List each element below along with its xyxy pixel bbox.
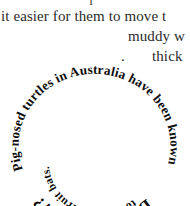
badge-outer-ring-text: Pig-nosed turtles in Australia have been… xyxy=(6,62,182,173)
badge-outer-ring-textpath: Pig-nosed turtles in Australia have been… xyxy=(6,62,182,173)
badge-title: Did you know? xyxy=(28,192,156,206)
document-page: l it easier for them to move t muddy w .… xyxy=(0,0,190,206)
badge-title-textpath: Did you know? xyxy=(28,192,156,206)
body-text-line-1: it easier for them to move t xyxy=(1,9,166,24)
body-text-line-2: muddy w xyxy=(128,29,185,44)
badge-inner-ring-text: to eat giant fruit bats. xyxy=(39,166,139,206)
did-you-know-badge: Pig-nosed turtles in Australia have been… xyxy=(12,57,188,206)
badge-inner-ring-textpath: to eat giant fruit bats. xyxy=(39,166,139,206)
clipped-text-fragment: l xyxy=(89,0,93,8)
